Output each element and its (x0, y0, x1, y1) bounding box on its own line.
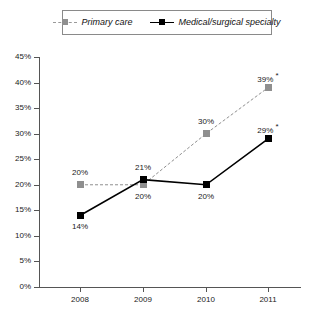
data-point-marker-primary-care (265, 84, 272, 91)
series-lines (0, 0, 309, 320)
data-point-marker-medical-surgical (140, 176, 147, 183)
series-line-primary-care (80, 88, 268, 185)
chart-container: Primary care Medical/surgical specialty … (0, 0, 309, 320)
data-point-marker-primary-care (203, 130, 210, 137)
data-point-label-primary-care: 30% (183, 118, 229, 126)
data-point-label-medical-surgical: 29% * (245, 123, 291, 135)
data-point-label-medical-surgical: 20% (183, 193, 229, 201)
data-point-label-primary-care: 20% (57, 169, 103, 177)
series-line-medical-surgical (80, 139, 268, 216)
data-point-marker-medical-surgical (203, 181, 210, 188)
data-point-marker-medical-surgical (77, 212, 84, 219)
data-point-label-primary-care: 20% (120, 193, 166, 201)
data-point-marker-primary-care (77, 181, 84, 188)
data-point-label-medical-surgical: 21% (120, 164, 166, 172)
data-point-label-primary-care: 39% * (245, 72, 291, 84)
data-point-label-medical-surgical: 14% (57, 223, 103, 231)
data-point-marker-medical-surgical (265, 135, 272, 142)
